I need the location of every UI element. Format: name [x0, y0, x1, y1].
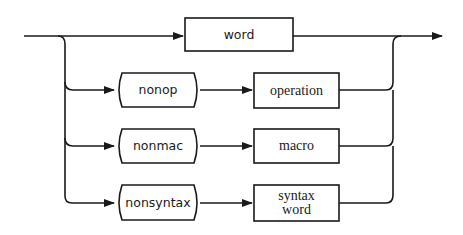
box-word: word [185, 18, 293, 51]
box-syntax-word: syntax word [254, 185, 339, 221]
syntax-diagram: word nonop operation nonmac macro nonsyn… [0, 0, 463, 235]
merge-syntaxword [339, 146, 393, 203]
box-macro: macro [254, 129, 339, 163]
merge-macro [339, 90, 393, 146]
box-nonmac: nonmac [119, 129, 197, 163]
box-word-label: word [224, 27, 255, 42]
box-nonop-label: nonop [138, 82, 177, 97]
box-nonmac-label: nonmac [133, 138, 183, 153]
left-branch [58, 36, 72, 203]
branch-to-nonop [65, 82, 114, 90]
box-nonop: nonop [119, 73, 197, 107]
box-syntax-word-line1: syntax [278, 188, 315, 203]
box-operation: operation [254, 73, 339, 108]
box-syntax-word-line2: word [282, 202, 311, 217]
box-nonsyntax: nonsyntax [119, 185, 197, 220]
box-macro-label: macro [279, 138, 314, 153]
box-operation-label: operation [270, 83, 323, 98]
box-nonsyntax-label: nonsyntax [125, 195, 190, 210]
branch-to-nonmac [65, 138, 114, 146]
right-merge [339, 36, 401, 90]
